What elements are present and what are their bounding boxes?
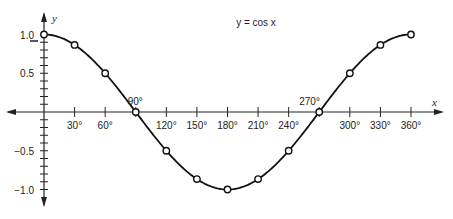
x-axis-right-arrow-icon (434, 109, 444, 115)
annotation-label: 270° (299, 96, 320, 107)
y-axis-down-arrow-icon (41, 197, 47, 207)
x-tick-label: 180° (217, 120, 238, 131)
y-tick-label: 1.0 (20, 30, 34, 41)
chart-title: y = cos x (236, 17, 276, 28)
x-axis-label: x (431, 96, 437, 108)
x-tick-label: 30° (67, 120, 82, 131)
x-tick-label: 360° (401, 120, 422, 131)
data-point-marker (347, 70, 353, 76)
data-point-marker (316, 109, 322, 115)
x-tick-label: 60° (98, 120, 113, 131)
data-point-marker (102, 70, 108, 76)
data-point-marker (377, 42, 383, 48)
cosine-chart: 30°60°90°120°150°180°210°240°270°300°330… (0, 0, 453, 219)
x-tick-label: 240° (278, 120, 299, 131)
data-point-marker (255, 176, 261, 182)
x-tick-label: 300° (339, 120, 360, 131)
x-tick-label: 330° (370, 120, 391, 131)
axes (6, 12, 444, 207)
x-axis-left-arrow-icon (6, 109, 16, 115)
y-tick-label: −0.5 (14, 146, 34, 157)
data-point-marker (163, 148, 169, 154)
y-axis-label: y (51, 12, 57, 24)
data-point-marker (133, 109, 139, 115)
data-point-marker (285, 148, 291, 154)
x-tick-label: 210° (248, 120, 269, 131)
y-axis-up-arrow-icon (41, 12, 47, 22)
annotation-label: 90° (128, 96, 143, 107)
y-tick-label: −1.0 (14, 185, 34, 196)
data-point-marker (71, 42, 77, 48)
data-point-marker (224, 186, 230, 192)
x-tick-label: 120° (156, 120, 177, 131)
data-point-marker (41, 31, 47, 37)
y-tick-label: 0.5 (20, 68, 34, 79)
data-point-marker (408, 31, 414, 37)
labels: 30°60°90°120°150°180°210°240°270°300°330… (14, 12, 437, 196)
x-tick-label: 150° (187, 120, 208, 131)
data-point-marker (194, 176, 200, 182)
